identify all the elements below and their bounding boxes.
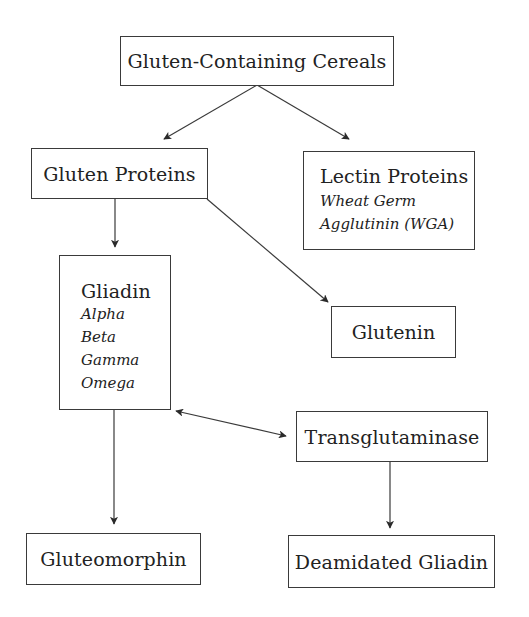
arrow-gliadin-transglutaminase-bidirectional xyxy=(176,411,286,436)
node-title: Gluteomorphin xyxy=(40,548,186,570)
list-item: Alpha xyxy=(81,303,139,326)
node-title: Deamidated Gliadin xyxy=(295,551,488,573)
list-item: Omega xyxy=(81,372,139,395)
node-gluten-proteins: Gluten Proteins xyxy=(31,148,208,199)
flowchart-canvas: Gluten-Containing Cereals Gluten Protein… xyxy=(0,0,529,617)
node-glutenin: Glutenin xyxy=(331,306,456,358)
arrow-cereals-to-gluten-proteins xyxy=(164,85,257,139)
list-item: Gamma xyxy=(81,349,139,372)
node-lectin-proteins: Lectin Proteins Wheat Germ Agglutinin (W… xyxy=(303,151,475,250)
node-title: Gluten-Containing Cereals xyxy=(128,50,387,72)
list-item: Beta xyxy=(81,326,139,349)
node-title: Gliadin xyxy=(81,280,151,302)
node-title: Glutenin xyxy=(352,321,436,343)
arrow-cereals-to-lectin-proteins xyxy=(257,85,349,139)
node-transglutaminase: Transglutaminase xyxy=(296,411,488,462)
node-subtitle: Wheat Germ xyxy=(320,190,416,213)
node-deamidated-gliadin: Deamidated Gliadin xyxy=(288,535,495,588)
node-gliadin: Gliadin Alpha Beta Gamma Omega xyxy=(59,255,171,410)
node-title: Lectin Proteins xyxy=(320,165,468,187)
node-gluteomorphin: Gluteomorphin xyxy=(26,533,201,585)
node-title: Gluten Proteins xyxy=(43,163,195,185)
node-subtitle: Agglutinin (WGA) xyxy=(320,213,454,236)
gliadin-subtypes-list: Alpha Beta Gamma Omega xyxy=(81,303,139,395)
node-gluten-containing-cereals: Gluten-Containing Cereals xyxy=(120,36,394,86)
node-title: Transglutaminase xyxy=(305,426,480,448)
